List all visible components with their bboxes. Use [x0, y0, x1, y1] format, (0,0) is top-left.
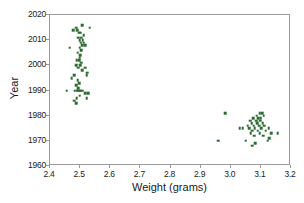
x-tick-label: 2.7: [134, 169, 145, 179]
x-tick-mark: [139, 165, 140, 168]
y-axis-title: Year: [8, 58, 20, 118]
x-tick-mark: [109, 165, 110, 168]
x-tick-label: 3.0: [224, 169, 235, 179]
x-tick-mark: [290, 165, 291, 168]
x-tick-mark: [170, 165, 171, 168]
x-tick-label: 2.4: [43, 169, 54, 179]
x-tick-mark: [200, 165, 201, 168]
x-tick-label: 2.9: [194, 169, 205, 179]
x-tick-mark: [79, 165, 80, 168]
x-tick-label: 3.2: [284, 169, 295, 179]
x-tick-label: 3.1: [254, 169, 265, 179]
x-tick-mark: [230, 165, 231, 168]
scatter-plot-figure: 1960197019801990200020102020 2.42.52.62.…: [0, 0, 304, 203]
x-tick-label: 2.6: [104, 169, 115, 179]
x-tick-label: 2.5: [74, 169, 85, 179]
x-tick-label: 2.8: [164, 169, 175, 179]
x-tick-mark: [260, 165, 261, 168]
x-tick-mark: [49, 165, 50, 168]
x-axis-title: Weight (grams): [49, 181, 290, 193]
